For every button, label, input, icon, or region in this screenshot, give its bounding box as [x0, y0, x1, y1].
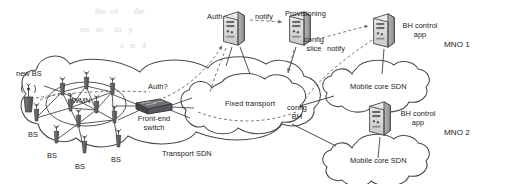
- config-slice-edge-label: config slice: [304, 36, 324, 53]
- provisioning-server-label: Provisioning: [285, 10, 326, 19]
- auth-server-label: Auth: [207, 13, 222, 22]
- wmn-control-dashed-path: [36, 91, 150, 98]
- bh-control-app-label-2: BH control app: [400, 110, 435, 127]
- transport-sdn-label: Transport SDN: [162, 150, 212, 159]
- auth-query-edge-label: Auth?: [148, 83, 168, 92]
- notify-edge-label-2: notify: [327, 45, 345, 54]
- mobile-core-sdn-label-2: Mobile core SDN: [350, 157, 407, 166]
- mno2-label: MNO 2: [444, 129, 470, 138]
- front-end-switch-icon: [136, 99, 172, 114]
- transport-to-core2-link: [292, 124, 336, 146]
- figure-root: the of the on as to y s n d: [0, 0, 508, 184]
- mobile-core-sdn-label-1: Mobile core SDN: [350, 83, 407, 92]
- bh-control-app-server-1-icon: [374, 14, 395, 47]
- base-station-label: BS: [47, 152, 57, 161]
- wmn-label: WMN: [72, 97, 91, 106]
- fixed-transport-label: Fixed transport: [225, 100, 275, 109]
- config-bh-edge-label: config BH: [287, 104, 307, 121]
- base-station-label: BS: [111, 156, 121, 165]
- notify-edge-label-1: notify: [255, 13, 273, 22]
- mno1-label: MNO 1: [444, 41, 470, 50]
- base-station-antenna-icon: [34, 103, 40, 121]
- bh-control-app-label-1: BH control app: [402, 22, 437, 39]
- base-station-label: BS: [75, 163, 85, 172]
- new-bs-label: new BS: [16, 70, 42, 79]
- front-end-switch-label: Front-end switch: [138, 115, 171, 132]
- auth-server-icon: [224, 12, 245, 45]
- bh-control-app-server-2-icon: [370, 102, 391, 135]
- base-station-label: BS: [28, 131, 38, 140]
- base-station-antenna-icon: [82, 135, 88, 153]
